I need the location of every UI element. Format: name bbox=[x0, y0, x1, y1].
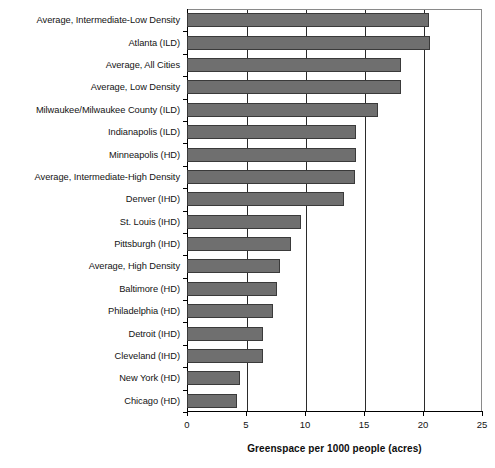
bar bbox=[187, 80, 401, 94]
y-tick bbox=[183, 121, 187, 122]
bar bbox=[187, 125, 356, 139]
bar bbox=[187, 215, 301, 229]
category-label: New York (HD) bbox=[0, 373, 180, 383]
category-label: Average, Low Density bbox=[0, 82, 180, 92]
y-tick bbox=[183, 76, 187, 77]
y-tick bbox=[183, 31, 187, 32]
bar bbox=[187, 58, 401, 72]
category-label: Average, High Density bbox=[0, 261, 180, 271]
x-tick-20 bbox=[423, 412, 424, 416]
bar bbox=[187, 259, 280, 273]
x-tick-label-15: 15 bbox=[349, 419, 379, 430]
bar bbox=[187, 13, 429, 27]
y-tick bbox=[183, 188, 187, 189]
y-tick bbox=[183, 390, 187, 391]
category-label: Denver (IHD) bbox=[0, 194, 180, 204]
y-tick bbox=[183, 166, 187, 167]
y-tick bbox=[183, 412, 187, 413]
bar bbox=[187, 192, 344, 206]
x-tick-label-20: 20 bbox=[408, 419, 438, 430]
x-axis-title: Greenspace per 1000 people (acres) bbox=[187, 443, 482, 454]
category-label: Average, Intermediate-High Density bbox=[0, 172, 180, 182]
x-tick-10 bbox=[305, 412, 306, 416]
y-tick bbox=[183, 54, 187, 55]
x-tick-label-25: 25 bbox=[467, 419, 495, 430]
category-label: Indianapolis (ILD) bbox=[0, 127, 180, 137]
y-tick bbox=[183, 99, 187, 100]
bars-layer bbox=[187, 9, 482, 412]
greenspace-bar-chart: Average, Intermediate-Low DensityAtlanta… bbox=[0, 0, 495, 468]
category-label: Atlanta (ILD) bbox=[0, 38, 180, 48]
bar bbox=[187, 237, 291, 251]
category-label: Baltimore (HD) bbox=[0, 284, 180, 294]
bar bbox=[187, 349, 263, 363]
y-tick bbox=[183, 278, 187, 279]
y-tick bbox=[183, 143, 187, 144]
category-label: Detroit (IHD) bbox=[0, 329, 180, 339]
bar bbox=[187, 148, 356, 162]
category-label: Average, All Cities bbox=[0, 60, 180, 70]
x-tick-25 bbox=[482, 412, 483, 416]
bar bbox=[187, 170, 355, 184]
x-tick-label-10: 10 bbox=[290, 419, 320, 430]
x-tick-label-5: 5 bbox=[231, 419, 261, 430]
bar bbox=[187, 304, 273, 318]
category-label: Minneapolis (HD) bbox=[0, 150, 180, 160]
y-tick bbox=[183, 367, 187, 368]
y-tick bbox=[183, 322, 187, 323]
bar bbox=[187, 371, 240, 385]
bar bbox=[187, 394, 237, 408]
category-label: Cleveland (IHD) bbox=[0, 351, 180, 361]
x-tick-15 bbox=[364, 412, 365, 416]
category-label: Chicago (HD) bbox=[0, 396, 180, 406]
category-label: Average, Intermediate-Low Density bbox=[0, 15, 180, 25]
category-label: Pittsburgh (IHD) bbox=[0, 239, 180, 249]
bar bbox=[187, 36, 430, 50]
category-label: St. Louis (IHD) bbox=[0, 217, 180, 227]
x-tick-0 bbox=[187, 412, 188, 416]
bar bbox=[187, 103, 378, 117]
y-tick bbox=[183, 211, 187, 212]
category-label: Milwaukee/Milwaukee County (ILD) bbox=[0, 105, 180, 115]
y-tick bbox=[183, 345, 187, 346]
x-tick-label-0: 0 bbox=[172, 419, 202, 430]
category-label-column: Average, Intermediate-Low DensityAtlanta… bbox=[0, 9, 184, 412]
bar bbox=[187, 282, 277, 296]
bar bbox=[187, 327, 263, 341]
y-tick bbox=[183, 233, 187, 234]
category-label: Philadelphia (HD) bbox=[0, 306, 180, 316]
x-tick-5 bbox=[246, 412, 247, 416]
y-tick bbox=[183, 300, 187, 301]
y-tick bbox=[183, 255, 187, 256]
